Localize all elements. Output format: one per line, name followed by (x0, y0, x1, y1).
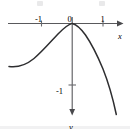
x-tick-label-minus1: -1 (35, 8, 42, 26)
x-tick-label-plus1: 1 (101, 8, 105, 26)
curve-path (9, 23, 116, 114)
y-axis-label: y (69, 116, 73, 129)
scan-artifacts (0, 1, 130, 129)
y-tick-label-minus1: -1 (56, 80, 63, 98)
y-axis-group (69, 17, 77, 116)
x-axis-group (8, 21, 124, 27)
coordinate-plane-svg (0, 0, 130, 129)
y-axis-arrowhead (69, 109, 75, 116)
origin-label: 0 (68, 8, 72, 26)
x-axis-label: x (118, 25, 122, 43)
figure-container: -1 0 1 x -1 y (0, 0, 130, 129)
